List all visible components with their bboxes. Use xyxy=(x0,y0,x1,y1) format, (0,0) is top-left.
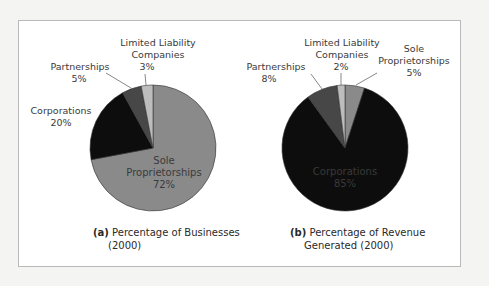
pie-chart-a: Limited Liability Companies 3% Partnersh… xyxy=(30,37,239,251)
label-llc-line2-b: Companies xyxy=(315,49,368,60)
label-sole-line2-a: Proprietorships xyxy=(126,167,201,178)
label-partnerships-pct-b: 8% xyxy=(261,73,276,84)
label-llc-pct-a: 3% xyxy=(139,61,154,72)
label-sole-pct-a: 72% xyxy=(153,179,175,190)
label-sole-a: Sole xyxy=(153,155,174,166)
label-corporations-a: Corporations xyxy=(30,105,91,116)
label-corporations-b: Corporations xyxy=(313,166,377,177)
pie-chart-b: Limited Liability Companies 2% Partnersh… xyxy=(246,37,449,251)
label-llc-line1-b: Limited Liability xyxy=(304,37,380,48)
label-sole-b: Sole xyxy=(404,43,424,54)
label-llc-pct-b: 2% xyxy=(333,61,348,72)
label-corporations-pct-b: 85% xyxy=(334,178,356,189)
label-partnerships-b: Partnerships xyxy=(246,61,305,72)
label-corporations-pct-a: 20% xyxy=(50,117,71,128)
label-sole-pct-b: 5% xyxy=(406,67,421,78)
caption-a-line2: (2000) xyxy=(108,240,141,251)
caption-b-line2: Generated (2000) xyxy=(304,240,394,251)
label-partnerships-pct-a: 5% xyxy=(71,73,86,84)
label-partnerships-a: Partnerships xyxy=(50,61,109,72)
label-sole-line2-b: Proprietorships xyxy=(378,55,450,66)
caption-b: (b) Percentage of Revenue xyxy=(290,227,425,238)
label-llc-line1-a: Limited Liability xyxy=(120,37,196,48)
pie-charts: Limited Liability Companies 3% Partnersh… xyxy=(0,0,489,286)
caption-a: (a) Percentage of Businesses xyxy=(93,227,240,238)
label-llc-line2-a: Companies xyxy=(131,49,184,60)
